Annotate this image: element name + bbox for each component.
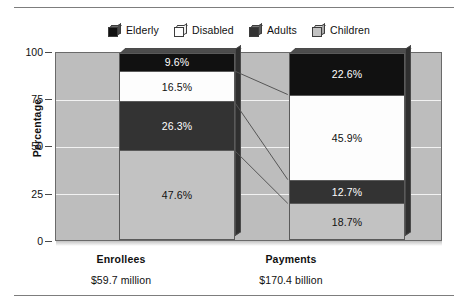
segment-enrollees-disabled[interactable]: 16.5% <box>120 72 234 103</box>
segment-label-enrollees-elderly: 9.6% <box>165 56 189 68</box>
legend-swatch-adults-icon <box>249 24 262 37</box>
y-tick-75: 75 <box>0 93 52 105</box>
chart-legend: Elderly Disabled Adults Children <box>108 20 370 40</box>
legend-swatch-elderly-icon <box>108 24 121 37</box>
category-name-payments: Payments <box>211 253 371 265</box>
segment-label-payments-disabled: 45.9% <box>332 132 362 144</box>
segment-payments-elderly[interactable]: 22.6% <box>290 54 404 96</box>
segment-label-payments-adults: 12.7% <box>332 186 362 198</box>
legend-item-elderly[interactable]: Elderly <box>108 24 159 37</box>
connector-line-adults <box>234 150 288 203</box>
category-sublabel-payments: $170.4 billion <box>211 274 371 286</box>
segment-enrollees-children[interactable]: 47.6% <box>120 151 234 239</box>
legend-item-adults[interactable]: Adults <box>249 24 297 37</box>
legend-item-disabled[interactable]: Disabled <box>174 24 234 37</box>
bar-payments-body: 22.6% 45.9% 12.7% 18.7% <box>289 53 405 240</box>
category-payments: Payments $170.4 billion <box>211 253 371 286</box>
bar-payments-side-face <box>405 45 411 236</box>
plot-baseline-shadow <box>56 241 442 246</box>
legend-label-adults: Adults <box>267 24 297 36</box>
top-divider-rule <box>14 7 454 8</box>
segment-label-enrollees-adults: 26.3% <box>162 120 192 132</box>
segment-label-enrollees-disabled: 16.5% <box>162 81 192 93</box>
legend-label-disabled: Disabled <box>192 24 234 36</box>
segment-payments-children[interactable]: 18.7% <box>290 204 404 239</box>
bar-enrollees-body: 9.6% 16.5% 26.3% 47.6% <box>119 53 235 240</box>
legend-item-children[interactable]: Children <box>312 24 370 37</box>
legend-swatch-disabled-icon <box>174 24 187 37</box>
legend-label-elderly: Elderly <box>126 24 159 36</box>
bar-enrollees[interactable]: 9.6% 16.5% 26.3% 47.6% <box>119 53 235 240</box>
legend-label-children: Children <box>330 24 370 36</box>
segment-payments-adults[interactable]: 12.7% <box>290 181 404 204</box>
segment-label-enrollees-children: 47.6% <box>162 189 192 201</box>
y-tick-label-0: 0 <box>37 235 52 247</box>
segment-label-payments-elderly: 22.6% <box>332 68 362 80</box>
bar-enrollees-side-face <box>235 45 241 236</box>
y-tick-label-100: 100 <box>25 46 52 58</box>
segment-enrollees-elderly[interactable]: 9.6% <box>120 54 234 72</box>
bar-payments[interactable]: 22.6% 45.9% 12.7% 18.7% <box>289 53 405 240</box>
segment-label-payments-children: 18.7% <box>332 216 362 228</box>
y-tick-100: 100 <box>0 46 52 58</box>
y-tick-0: 0 <box>0 235 52 247</box>
category-sublabel-enrollees: $59.7 million <box>41 274 201 286</box>
segment-payments-disabled[interactable]: 45.9% <box>290 96 404 181</box>
connector-line-elderly <box>234 71 288 95</box>
y-tick-25: 25 <box>0 188 52 200</box>
plot-area: 9.6% 16.5% 26.3% 47.6% 22.6% 45.9% <box>55 52 442 241</box>
category-enrollees: Enrollees $59.7 million <box>41 253 201 286</box>
legend-swatch-children-icon <box>312 24 325 37</box>
y-tick-label-25: 25 <box>31 188 52 200</box>
category-name-enrollees: Enrollees <box>41 253 201 265</box>
segment-enrollees-adults[interactable]: 26.3% <box>120 102 234 151</box>
y-tick-50: 50 <box>0 140 52 152</box>
bottom-divider-rule <box>14 295 454 296</box>
y-tick-label-75: 75 <box>31 93 52 105</box>
connector-line-disabled <box>234 101 288 179</box>
y-tick-label-50: 50 <box>31 140 52 152</box>
